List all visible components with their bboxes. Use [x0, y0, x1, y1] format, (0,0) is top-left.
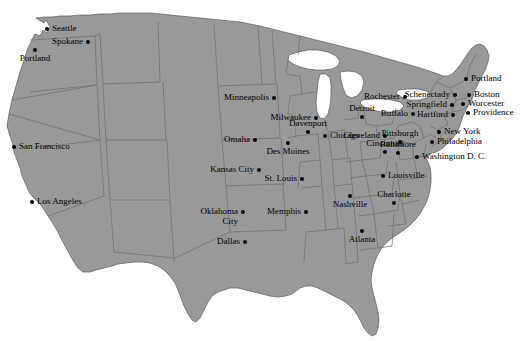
- city-dot-icon: [437, 130, 441, 134]
- city-dot-icon: [381, 174, 385, 178]
- city-dot-icon: [86, 40, 90, 44]
- city-dot-icon: [450, 103, 454, 107]
- city-label: Hartford: [417, 110, 448, 120]
- city-marker-layer: SeattleSpokanePortlandSan FranciscoLos A…: [0, 0, 520, 341]
- city-dot-icon: [466, 111, 470, 115]
- city-dot-icon: [300, 177, 304, 181]
- city-label: Memphis: [267, 207, 301, 217]
- city-label: Philadelphia: [437, 137, 482, 147]
- city-dot-icon: [241, 210, 245, 214]
- city-dot-icon: [257, 168, 261, 172]
- city-label: Spokane: [52, 37, 83, 47]
- city-label: Minneapolis: [224, 93, 269, 103]
- city-dot-icon: [12, 145, 16, 149]
- city-label: St. Louis: [264, 174, 297, 184]
- city-label: Des Moines: [266, 147, 309, 157]
- city-label: Los Angeles: [37, 197, 82, 207]
- city-dot-icon: [243, 240, 247, 244]
- city-dot-icon: [304, 210, 308, 214]
- city-label: Louisville: [388, 171, 425, 181]
- city-label: Rochester: [364, 92, 400, 102]
- city-label: Seattle: [52, 24, 77, 34]
- city-label: Portland: [20, 54, 51, 64]
- city-dot-icon: [30, 200, 34, 204]
- city-label: Oklahoma City: [201, 207, 239, 226]
- city-label: Buffalo: [381, 109, 408, 119]
- city-label: Davenport: [289, 119, 327, 129]
- city-dot-icon: [411, 112, 415, 116]
- city-label: Baltimore: [380, 140, 416, 150]
- city-dot-icon: [467, 93, 471, 97]
- city-dot-icon: [360, 115, 364, 119]
- city-dot-icon: [360, 229, 364, 233]
- city-dot-icon: [461, 102, 465, 106]
- city-label: Washington D. C.: [422, 152, 486, 162]
- city-label: Portland: [471, 74, 502, 84]
- city-dot-icon: [323, 134, 327, 138]
- city-label: Atlanta: [349, 235, 376, 245]
- city-label: Omaha: [224, 135, 250, 145]
- city-dot-icon: [396, 151, 400, 155]
- city-dot-icon: [253, 138, 257, 142]
- city-label: San Francisco: [19, 142, 70, 152]
- city-dot-icon: [392, 201, 396, 205]
- city-label: Pittsburgh: [382, 129, 419, 139]
- city-dot-icon: [451, 113, 455, 117]
- city-dot-icon: [306, 130, 310, 134]
- city-dot-icon: [348, 194, 352, 198]
- city-label: Nashville: [333, 200, 368, 210]
- city-dot-icon: [383, 150, 387, 154]
- us-cities-map: SeattleSpokanePortlandSan FranciscoLos A…: [0, 0, 520, 341]
- city-label: Dallas: [217, 237, 240, 247]
- city-dot-icon: [464, 77, 468, 81]
- city-label: Kansas City: [210, 165, 254, 175]
- city-label: Providence: [473, 108, 514, 118]
- city-label: Detroit: [349, 104, 375, 114]
- city-dot-icon: [272, 96, 276, 100]
- city-dot-icon: [430, 140, 434, 144]
- city-dot-icon: [33, 48, 37, 52]
- city-dot-icon: [286, 141, 290, 145]
- city-label: Charlotte: [377, 190, 411, 200]
- city-dot-icon: [453, 93, 457, 97]
- city-dot-icon: [415, 155, 419, 159]
- city-dot-icon: [45, 27, 49, 31]
